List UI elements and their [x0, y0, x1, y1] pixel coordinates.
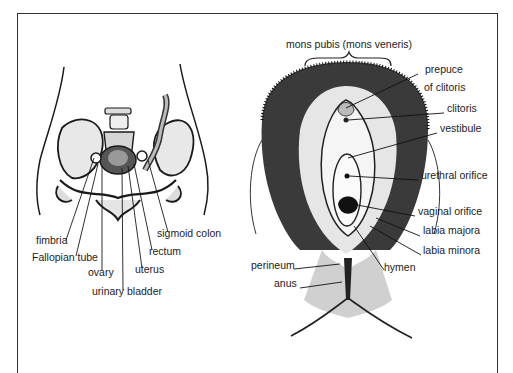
- label-mons-pubis: mons pubis (mons veneris): [286, 38, 412, 50]
- label-fimbria: fimbria: [36, 234, 68, 246]
- label-perineum: perineum: [251, 259, 295, 271]
- label-rectum: rectum: [149, 245, 181, 257]
- label-labia-minora: labia minora: [423, 244, 480, 256]
- label-fallopian-tube: Fallopian tube: [32, 251, 98, 263]
- label-sigmoid-colon: sigmoid colon: [157, 227, 221, 239]
- external-genitalia-illustration: [250, 52, 444, 338]
- label-labia-majora: labia majora: [423, 224, 480, 236]
- label-ovary: ovary: [88, 266, 114, 278]
- label-clitoris: clitoris: [447, 102, 477, 114]
- label-of-clitoris: of clitoris: [424, 81, 465, 93]
- label-urinary-bladder: urinary bladder: [92, 285, 162, 297]
- label-prepuce: prepuce: [425, 63, 463, 75]
- label-urethral-orifice: urethral orifice: [421, 169, 488, 181]
- label-hymen: hymen: [384, 261, 416, 273]
- label-uterus: uterus: [135, 263, 164, 275]
- label-anus: anus: [274, 277, 297, 289]
- label-vaginal-orifice: vaginal orifice: [418, 205, 482, 217]
- label-vestibule: vestibule: [440, 122, 481, 134]
